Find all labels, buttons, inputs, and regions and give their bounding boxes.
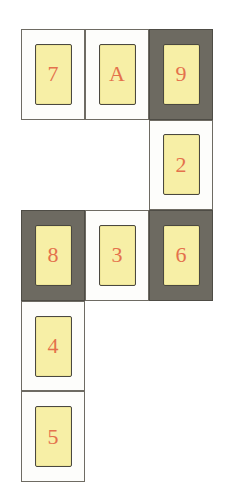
grid-cell-r5c1[interactable]: 5 xyxy=(21,391,85,482)
card-4[interactable]: 4 xyxy=(35,316,72,377)
card-7[interactable]: 7 xyxy=(35,44,72,105)
grid-cell-r1c3[interactable]: 9 xyxy=(149,29,213,120)
card-label: 5 xyxy=(48,426,59,448)
card-a[interactable]: A xyxy=(99,44,136,105)
card-label: 9 xyxy=(176,63,187,85)
card-9[interactable]: 9 xyxy=(163,44,200,105)
grid-cell-r2c3[interactable]: 2 xyxy=(149,120,213,211)
card-label: 8 xyxy=(48,244,59,266)
card-8[interactable]: 8 xyxy=(35,225,72,286)
card-label: 3 xyxy=(112,244,123,266)
grid-cell-r3c3[interactable]: 6 xyxy=(149,210,213,301)
card-5[interactable]: 5 xyxy=(35,406,72,467)
card-6[interactable]: 6 xyxy=(163,225,200,286)
card-label: 4 xyxy=(48,335,59,357)
grid-cell-r3c1[interactable]: 8 xyxy=(21,210,85,301)
grid-cell-r4c1[interactable]: 4 xyxy=(21,301,85,392)
card-3[interactable]: 3 xyxy=(99,225,136,286)
card-label: 7 xyxy=(48,63,59,85)
card-grid-board: 7A9283645 xyxy=(21,29,207,482)
grid-cell-r1c1[interactable]: 7 xyxy=(21,29,85,120)
card-2[interactable]: 2 xyxy=(163,134,200,195)
card-label: 2 xyxy=(176,154,187,176)
card-label: 6 xyxy=(176,244,187,266)
grid-cell-r1c2[interactable]: A xyxy=(85,29,149,120)
card-label: A xyxy=(109,63,125,85)
grid-cell-r3c2[interactable]: 3 xyxy=(85,210,149,301)
